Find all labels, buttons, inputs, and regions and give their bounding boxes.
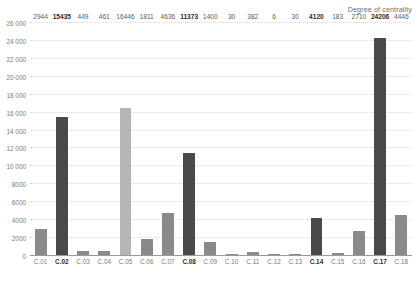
bar-value-label: 30	[292, 14, 299, 21]
y-tick-label: 24 000	[6, 37, 26, 44]
plot-area: 0200040006000800010 00012 00014 00016 00…	[30, 22, 412, 255]
x-tick-C.16: C.16	[348, 258, 369, 274]
x-tick-C.17: C.17	[370, 258, 391, 274]
bar-slot: 16446	[115, 22, 136, 255]
bar-C.10[interactable]: 30	[226, 254, 238, 255]
x-tick-C.11: C.11	[242, 258, 263, 274]
bar-slot: 2944	[30, 22, 51, 255]
bar-C.08[interactable]: 11373	[183, 153, 195, 255]
bar-slot: 1400	[200, 22, 221, 255]
x-tick-C.06: C.06	[136, 258, 157, 274]
bar-slot: 11373	[179, 22, 200, 255]
y-tick-label: 8000	[12, 181, 26, 188]
y-tick-label: 14 000	[6, 127, 26, 134]
bar-C.04[interactable]: 461	[98, 251, 110, 255]
bar-value-label: 16446	[116, 14, 134, 21]
x-tick-C.03: C.03	[72, 258, 93, 274]
bar-C.02[interactable]: 15435	[56, 117, 68, 255]
y-tick-label: 10 000	[6, 163, 26, 170]
axis-baseline: 0	[30, 255, 412, 256]
y-tick-label: 4000	[12, 217, 26, 224]
bar-slot: 4120	[306, 22, 327, 255]
bar-value-label: 2710	[352, 14, 367, 21]
bar-slot: 461	[94, 22, 115, 255]
bar-C.06[interactable]: 1811	[141, 239, 153, 255]
x-tick-C.07: C.07	[157, 258, 178, 274]
x-tick-C.13: C.13	[285, 258, 306, 274]
y-tick-label: 16 000	[6, 109, 26, 116]
bar-C.01[interactable]: 2944	[35, 229, 47, 255]
y-tick-label: 12 000	[6, 145, 26, 152]
bars-layer: 2944154354494611644618114636113731400303…	[30, 22, 412, 255]
x-tick-C.01: C.01	[30, 258, 51, 274]
bar-C.18[interactable]: 4446	[395, 215, 407, 255]
bar-slot: 382	[242, 22, 263, 255]
y-tick-label: 2000	[12, 235, 26, 242]
bar-C.12[interactable]: 6	[268, 254, 280, 255]
x-tick-C.02: C.02	[51, 258, 72, 274]
bar-value-label: 30	[228, 14, 235, 21]
bar-C.05[interactable]: 16446	[120, 108, 132, 255]
y-tick-label: 26 000	[6, 20, 26, 27]
bar-value-label: 15435	[53, 14, 71, 21]
y-tick-label: 0	[22, 253, 26, 260]
bar-chart: Degree of centrality 0200040006000800010…	[0, 0, 418, 292]
bar-slot: 6	[263, 22, 284, 255]
x-tick-C.15: C.15	[327, 258, 348, 274]
bar-value-label: 1811	[140, 14, 154, 21]
x-tick-C.12: C.12	[263, 258, 284, 274]
bar-value-label: 11373	[180, 14, 198, 21]
bar-value-label: 24206	[371, 14, 389, 21]
x-tick-C.10: C.10	[221, 258, 242, 274]
bar-value-label: 1400	[203, 14, 218, 21]
bar-C.17[interactable]: 24206	[374, 38, 386, 255]
bar-value-label: 4446	[394, 14, 409, 21]
y-tick-label: 6000	[12, 199, 26, 206]
bar-C.11[interactable]: 382	[247, 252, 259, 255]
bar-slot: 24206	[370, 22, 391, 255]
y-tick-label: 22 000	[6, 55, 26, 62]
bar-slot: 30	[285, 22, 306, 255]
bar-slot: 30	[221, 22, 242, 255]
bar-slot: 2710	[348, 22, 369, 255]
bar-C.09[interactable]: 1400	[204, 242, 216, 255]
bar-value-label: 4636	[161, 14, 176, 21]
x-tick-C.09: C.09	[200, 258, 221, 274]
bar-slot: 1811	[136, 22, 157, 255]
y-tick-label: 18 000	[6, 91, 26, 98]
x-axis-labels: C.01C.02C.03C.04C.05C.06C.07C.08C.09C.10…	[30, 258, 412, 274]
x-tick-C.04: C.04	[94, 258, 115, 274]
bar-value-label: 382	[247, 14, 258, 21]
bar-value-label: 6	[272, 14, 276, 21]
bar-C.13[interactable]: 30	[289, 254, 301, 255]
x-tick-C.14: C.14	[306, 258, 327, 274]
bar-slot: 449	[72, 22, 93, 255]
bar-value-label: 183	[332, 14, 343, 21]
y-tick-label: 20 000	[6, 73, 26, 80]
x-tick-C.05: C.05	[115, 258, 136, 274]
x-tick-C.08: C.08	[179, 258, 200, 274]
bar-C.14[interactable]: 4120	[311, 218, 323, 255]
bar-slot: 183	[327, 22, 348, 255]
bar-value-label: 461	[99, 14, 110, 21]
bar-C.15[interactable]: 183	[332, 253, 344, 255]
bar-slot: 15435	[51, 22, 72, 255]
bar-value-label: 4120	[309, 14, 324, 21]
bar-slot: 4636	[157, 22, 178, 255]
bar-value-label: 2944	[33, 14, 48, 21]
bar-slot: 4446	[391, 22, 412, 255]
bar-C.07[interactable]: 4636	[162, 213, 174, 255]
bar-value-label: 449	[78, 14, 89, 21]
bar-C.16[interactable]: 2710	[353, 231, 365, 255]
bar-C.03[interactable]: 449	[77, 251, 89, 255]
x-tick-C.18: C.18	[391, 258, 412, 274]
